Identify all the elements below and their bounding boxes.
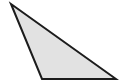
triangle-diagram <box>0 0 119 84</box>
geometry-figure-canvas: Obtuse scalene triangle, light gray fill… <box>0 0 119 84</box>
